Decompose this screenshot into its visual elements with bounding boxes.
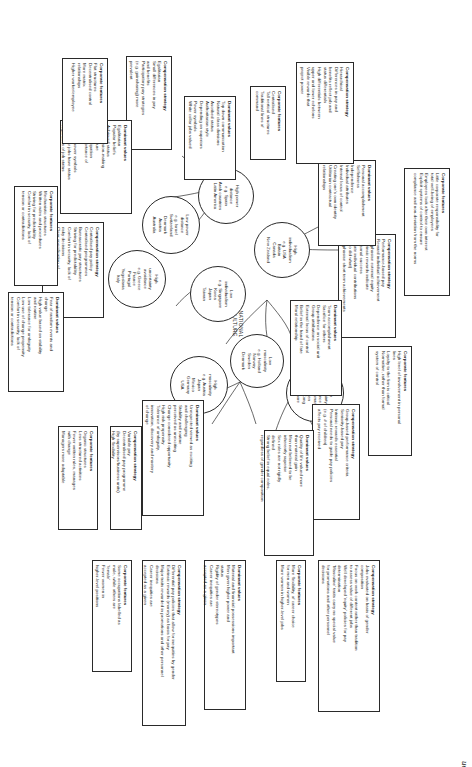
box-heading: Compensation strategy bbox=[344, 67, 350, 159]
box-high-ua-dominant-values[interactable]: Dominant values Fear of random events an… bbox=[8, 292, 64, 392]
box-line: Less structured activities bbox=[77, 431, 83, 525]
circle-line: Yugoslavia bbox=[121, 268, 126, 289]
box-line: upper and lower echelons bbox=[311, 67, 317, 159]
box-line: 'Masculine' traits carry no special valu… bbox=[331, 565, 337, 707]
circle-line: Denmark bbox=[241, 352, 246, 370]
box-high-pd-corporate-features[interactable]: Corporate features Centralised Tall vert… bbox=[250, 86, 286, 160]
box-heading: Dominant values bbox=[332, 305, 338, 391]
box-line: External locus of control bbox=[304, 305, 310, 391]
box-high-masc-dominant-values[interactable]: Dominant values Material and financial p… bbox=[204, 560, 246, 710]
source-credit: Source: Gomez-Mejia, Welbourne, in Sparr… bbox=[458, 761, 468, 767]
box-low-ind-compensation-strategy[interactable]: Compensation strategy Group-based perfor… bbox=[312, 404, 360, 520]
box-line: Explicit systems of control to ensure bbox=[418, 173, 424, 291]
circle-high-uncertainty-avoidance[interactable]: High uncertainty avoidance e.g. Greece F… bbox=[108, 250, 166, 308]
box-low-pd-corporate-features[interactable]: Corporate features Flat structures Decen… bbox=[62, 58, 108, 144]
circle-line: USA bbox=[180, 380, 185, 389]
circle-line: Britain bbox=[277, 244, 282, 256]
box-line: decisions bbox=[320, 565, 326, 707]
box-low-masc-dominant-values[interactable]: Dominant values Quality of life valued m… bbox=[264, 430, 314, 556]
circle-high-individualism[interactable]: High individualism e.g. USA Britain Cana… bbox=[254, 222, 310, 278]
box-high-ind-corporate-features[interactable]: Corporate features Little corporate resp… bbox=[404, 168, 450, 296]
box-high-pd-compensation-strategy[interactable]: Compensation strategy Hierarchical Diffe… bbox=[296, 62, 354, 164]
box-line: innovation, discovery and mastery bbox=[150, 405, 156, 511]
box-line: regardless of gender composition bbox=[260, 435, 266, 551]
box-line: Rigidity of gender stereotypes bbox=[214, 565, 220, 705]
box-high-ua-corporate-features[interactable]: Corporate features Mechanistic structure… bbox=[14, 186, 58, 286]
box-line: Team accomplishment bbox=[327, 305, 333, 391]
box-line: Top down communication bbox=[221, 101, 227, 175]
box-line: Participatory pay strategies bbox=[140, 61, 146, 145]
box-heading: Dominant values bbox=[304, 435, 310, 551]
box-line: Normative, rather than formal bbox=[380, 351, 386, 451]
circle-line: avoidance bbox=[142, 269, 147, 289]
box-low-ind-corporate-features[interactable]: Corporate features High level of involve… bbox=[368, 346, 412, 456]
box-heading: Corporate features bbox=[88, 431, 94, 525]
box-low-ind-dominant-values[interactable]: Dominant values Team accomplishment Sacr… bbox=[290, 300, 342, 396]
circle-line: individualism bbox=[223, 281, 228, 306]
box-line: than material gain bbox=[293, 435, 299, 551]
box-low-ua-corporate-features[interactable]: Corporate features Organic structures Le… bbox=[58, 426, 98, 530]
box-heading: Compensation strategy bbox=[350, 409, 356, 515]
box-heading: Dominant values bbox=[122, 125, 128, 209]
box-high-ind-dominant-values[interactable]: Dominant values Personal accomplishment … bbox=[318, 160, 376, 246]
box-line: Small differences in pay bbox=[151, 61, 157, 145]
box-line: and challenging bbox=[183, 405, 189, 511]
box-heading: Corporate features bbox=[276, 91, 282, 155]
box-line: Major traits rewarded in promotions and … bbox=[160, 565, 166, 721]
circle-line: uncertainty bbox=[148, 268, 153, 289]
box-heading: Corporate features bbox=[296, 565, 302, 677]
circle-low-masculinity[interactable]: Low masculinity e.g. Holland Norway Swed… bbox=[230, 334, 284, 388]
box-line: Egalitarian bbox=[117, 125, 123, 209]
box-high-pd-dominant-values[interactable]: Dominant values Top down communication N… bbox=[184, 96, 236, 180]
circle-low-power-distance[interactable]: Low power distance e.g. Israel Switzerla… bbox=[142, 196, 200, 254]
box-line: Isolate individual contributions bbox=[353, 239, 359, 333]
box-line: Creating one's own identity bbox=[333, 165, 339, 241]
box-line: Personal accomplishment bbox=[361, 165, 367, 241]
box-line: Employees look after their own interest bbox=[424, 173, 430, 291]
circle-line: Korea bbox=[213, 288, 218, 300]
box-line: change bbox=[43, 297, 49, 387]
box-low-masc-corporate-features[interactable]: Corporate features More flexibility, of … bbox=[276, 560, 306, 682]
box-line: Utilitarian contractual bbox=[327, 165, 333, 241]
box-low-masc-compensation-strategy[interactable]: Compensation strategy Jobs evaluated on … bbox=[318, 560, 380, 712]
box-heading: Compensation strategy bbox=[162, 61, 168, 145]
box-line: Change considered opportunity bbox=[166, 405, 172, 511]
circle-line: Japan bbox=[196, 379, 201, 391]
box-line: More women in higher-level jobs bbox=[280, 565, 286, 677]
box-high-masc-compensation-strategy[interactable]: Compensation strategy Differential pay p… bbox=[142, 560, 186, 726]
box-line: accepted as a given bbox=[203, 565, 209, 705]
box-line: lives bbox=[391, 351, 397, 451]
box-line: Sacrifice for others bbox=[321, 305, 327, 391]
circle-line: Low bbox=[268, 357, 273, 365]
circle-line: High bbox=[153, 274, 158, 283]
box-line: Comfort in security, lack of bbox=[15, 297, 21, 387]
circle-line: Norway bbox=[252, 354, 257, 369]
box-line: Popular beliefs bbox=[111, 125, 117, 209]
box-line: Independence bbox=[350, 165, 356, 241]
circle-line: Taiwan bbox=[202, 287, 207, 301]
box-line: Group attributions bbox=[310, 305, 316, 391]
box-low-pd-compensation-strategy[interactable]: Compensation strategy Egalitarian Small … bbox=[126, 56, 172, 150]
box-line: Emphasise external equity bbox=[370, 239, 376, 333]
box-line: status differentials bbox=[322, 67, 328, 159]
box-line: Quality of life valued more bbox=[299, 435, 305, 551]
circle-line: High power bbox=[234, 185, 239, 207]
box-line: Men given higher power and bbox=[225, 565, 231, 705]
box-low-ua-compensation-strategy[interactable]: Compensation strategy Variable pay Decen… bbox=[110, 426, 142, 530]
box-line: project power bbox=[300, 67, 306, 159]
box-line: Low use of change propensity bbox=[21, 297, 27, 387]
box-heading: Compensation strategy bbox=[176, 565, 182, 721]
box-line: Bureaucratic pay structures bbox=[78, 227, 84, 313]
circle-line: e.g. Holland bbox=[257, 349, 262, 372]
box-line: Jobs evaluated on basis of gender bbox=[365, 565, 371, 707]
circle-low-individualism[interactable]: Low individualism e.g. Singapore Korea J… bbox=[190, 266, 246, 322]
box-line: Organic structures bbox=[83, 431, 89, 525]
box-low-ua-dominant-values[interactable]: Dominant values Unexpected viewed as exc… bbox=[142, 400, 204, 516]
box-high-ind-compensation-strategy[interactable]: Compensation strategy Performance-based … bbox=[338, 234, 396, 338]
box-line: Decentralised pay programme bbox=[121, 431, 127, 525]
box-line: Fewer written rules, manages bbox=[72, 431, 78, 525]
box-line: of change bbox=[144, 405, 150, 511]
box-line: accepted as a given bbox=[143, 565, 149, 721]
box-high-masc-corporate-features[interactable]: Corporate features Some occupations labe… bbox=[92, 560, 132, 672]
box-line: inherently superior bbox=[282, 435, 288, 551]
